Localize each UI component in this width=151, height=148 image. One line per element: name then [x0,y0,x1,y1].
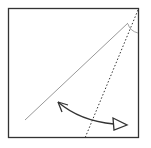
paper-square [9,9,139,138]
fold-diagram [0,0,151,148]
